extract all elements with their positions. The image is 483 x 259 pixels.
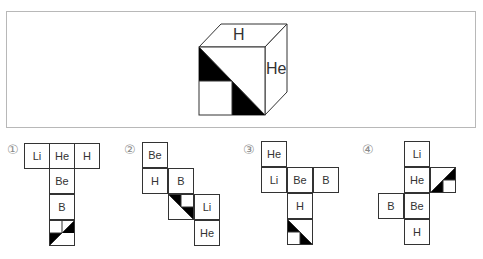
option-1-cell: B	[49, 194, 75, 220]
cube-right-label: He	[266, 61, 286, 77]
option-4-cell: Be	[404, 193, 430, 219]
option-1-cell: Be	[49, 168, 75, 194]
option-4-cell: H	[404, 219, 430, 245]
option-1-number[interactable]: ①	[7, 143, 19, 156]
option-3-cell: Li	[261, 167, 287, 193]
option-4-pattern-cell	[430, 167, 456, 193]
option-3-number[interactable]: ③	[243, 143, 255, 156]
option-2-number[interactable]: ②	[124, 143, 136, 156]
option-1-pattern-cell	[49, 220, 75, 246]
option-1-cell: Li	[24, 143, 50, 169]
option-3-cell: He	[261, 141, 287, 167]
option-4-number[interactable]: ④	[362, 143, 374, 156]
option-3-pattern-cell	[287, 219, 313, 245]
option-2-cell: He	[194, 220, 220, 246]
option-2-cell: Be	[142, 142, 168, 168]
option-2-cell: H	[142, 168, 168, 194]
option-2-cell: Li	[194, 194, 220, 220]
cube-top-label: H	[233, 27, 245, 43]
option-4-cell: B	[378, 193, 404, 219]
option-1-cell: He	[49, 143, 75, 169]
option-2-pattern-cell	[168, 194, 194, 220]
option-3-cell: H	[287, 193, 313, 219]
option-2-cell: B	[168, 168, 194, 194]
option-4-cell: Li	[404, 141, 430, 167]
option-3-cell: B	[313, 167, 339, 193]
option-1-cell: H	[74, 143, 100, 169]
option-3-cell: Be	[287, 167, 313, 193]
option-4-cell: He	[404, 167, 430, 193]
